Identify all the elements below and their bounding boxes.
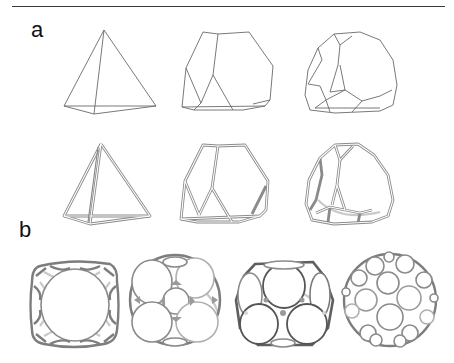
panel-a-row2-truncated-tetrahedron bbox=[181, 145, 268, 222]
panel-a-row2-tetrahedron bbox=[64, 144, 150, 224]
panel-b-truncated-octahedron bbox=[236, 261, 333, 347]
panel-a-row1-higher-truncated-tetrahedron bbox=[305, 32, 397, 113]
panel-b-truncated-cube bbox=[31, 261, 119, 347]
panel-a-row2-higher-truncated-tetrahedron bbox=[306, 144, 393, 224]
polyhedra-figure bbox=[0, 0, 454, 363]
panel-a-row1-tetrahedron bbox=[64, 30, 156, 114]
panel-b-truncated-cuboctahedron bbox=[130, 255, 220, 346]
panel-a-row1-truncated-tetrahedron bbox=[182, 32, 273, 110]
panel-b-truncated-icosahedron bbox=[342, 252, 438, 347]
